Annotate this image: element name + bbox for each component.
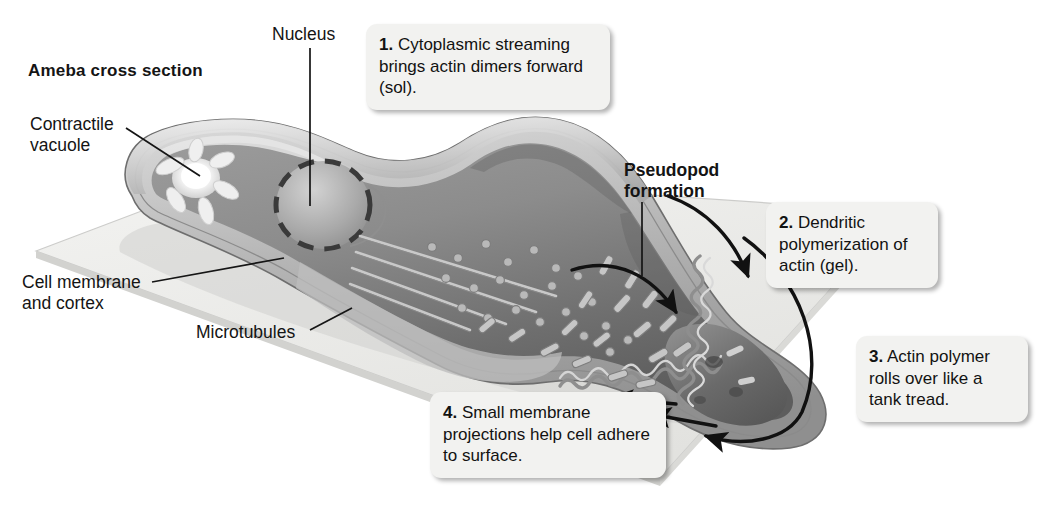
callout-step-1: 1. Cytoplasmic streaming brings actin di… bbox=[366, 24, 610, 110]
label-contractile-vacuole: Contractile vacuole bbox=[30, 114, 114, 156]
page-title: Ameba cross section bbox=[28, 60, 203, 81]
callout-step-4-number: 4. bbox=[443, 403, 457, 422]
callout-step-3-number: 3. bbox=[869, 347, 883, 366]
callout-step-2: 2. Dendritic polymerization of actin (ge… bbox=[766, 202, 938, 288]
callout-step-2-text: Dendritic polymerization of actin (gel). bbox=[779, 213, 908, 275]
callout-step-3: 3. Actin polymer rolls over like a tank … bbox=[856, 336, 1028, 422]
callout-step-3-text: Actin polymer rolls over like a tank tre… bbox=[869, 347, 990, 409]
label-pseudopod-formation: Pseudopod formation bbox=[624, 160, 719, 202]
callout-step-4: 4. Small membrane projections help cell … bbox=[430, 392, 666, 478]
label-nucleus: Nucleus bbox=[272, 24, 335, 45]
label-microtubules: Microtubules bbox=[196, 322, 295, 343]
label-cell-membrane-and-cortex: Cell membrane and cortex bbox=[22, 272, 141, 314]
callout-step-2-number: 2. bbox=[779, 213, 793, 232]
callout-step-1-text: Cytoplasmic streaming brings actin dimer… bbox=[379, 35, 583, 97]
callout-step-4-text: Small membrane projections help cell adh… bbox=[443, 403, 650, 465]
figure-canvas: Ameba cross section Nucleus Contractile … bbox=[0, 0, 1058, 507]
callout-step-1-number: 1. bbox=[379, 35, 393, 54]
